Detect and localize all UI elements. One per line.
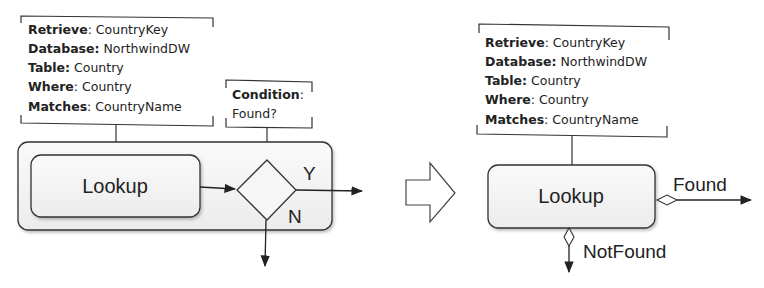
svg-text:Table: Country: Table: Country — [28, 60, 124, 75]
svg-text:Where: Country: Where: Country — [28, 79, 132, 94]
notfound-port-diamond-icon — [564, 228, 574, 246]
svg-text:Database: NorthwindDW: Database: NorthwindDW — [485, 54, 647, 69]
diagram-canvas: Retrieve: CountryKey Database: Northwind… — [0, 0, 764, 288]
svg-text:Database: NorthwindDW: Database: NorthwindDW — [28, 41, 190, 56]
lookup-task-after[interactable]: Lookup — [488, 165, 655, 228]
svg-text:Matches: CountryName: Matches: CountryName — [28, 99, 182, 114]
found-label: Found — [673, 174, 727, 195]
svg-text:Retrieve: CountryKey: Retrieve: CountryKey — [485, 35, 626, 50]
svg-text:Condition:: Condition: — [232, 87, 304, 102]
after-diagram: Retrieve: CountryKey Database: Northwind… — [477, 24, 751, 272]
lookup-annotation-after: Retrieve: CountryKey Database: Northwind… — [477, 24, 669, 166]
svg-text:Lookup: Lookup — [82, 175, 148, 197]
lookup-annotation: Retrieve: CountryKey Database: Northwind… — [21, 16, 213, 155]
svg-text:Table: Country: Table: Country — [485, 73, 581, 88]
svg-text:Found?: Found? — [232, 106, 277, 121]
svg-text:Retrieve: CountryKey: Retrieve: CountryKey — [28, 22, 169, 37]
before-diagram: Retrieve: CountryKey Database: Northwind… — [18, 16, 362, 266]
svg-text:Where: Country: Where: Country — [485, 92, 589, 107]
yes-label: Y — [303, 163, 316, 184]
no-label: N — [288, 206, 302, 227]
lookup-task-before[interactable]: Lookup — [31, 155, 200, 217]
found-port-diamond-icon — [657, 195, 677, 205]
svg-text:Matches: CountryName: Matches: CountryName — [485, 112, 639, 127]
notfound-label: NotFound — [583, 241, 666, 262]
hollow-right-arrow-icon — [406, 163, 455, 222]
svg-text:Lookup: Lookup — [538, 185, 604, 207]
